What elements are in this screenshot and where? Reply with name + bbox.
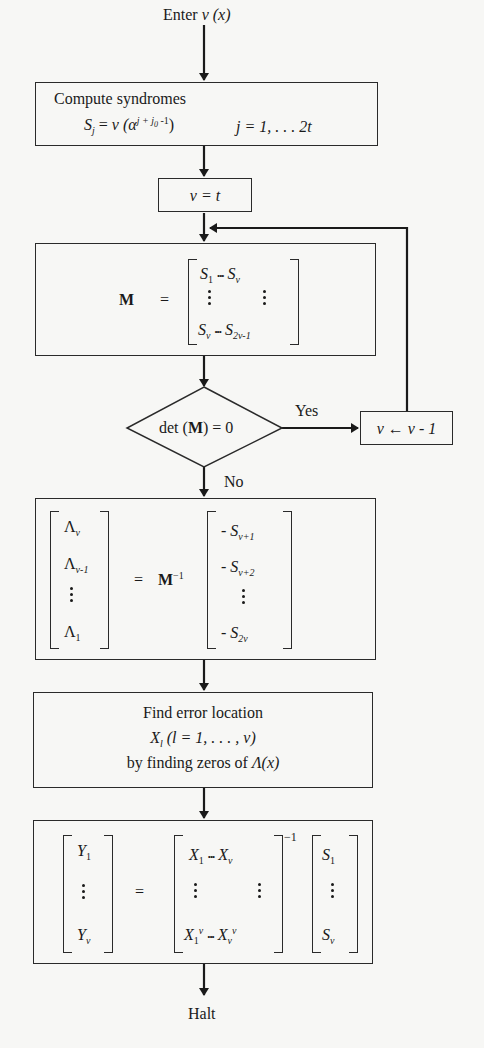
lambda-left-bracket-close <box>100 511 109 649</box>
y-entry-bottom: Yν <box>77 927 90 943</box>
matrix-m-row2: Sν ••• S2ν-1 <box>198 322 251 338</box>
x-row-1: X1 ••• Xν <box>189 847 232 863</box>
start-label: Enter v (x) <box>163 7 231 23</box>
locate-line-1: Find error location <box>34 705 372 721</box>
syndromes-range: j = 1, . . . 2t <box>236 119 312 135</box>
matrix-m-vdots-right <box>263 290 266 308</box>
x-row-2: X1ν ••• Xνν <box>184 927 236 943</box>
y-vdots <box>82 884 85 902</box>
matrix-m-row1: S1 ••• Sν <box>200 266 240 282</box>
matrix-m-vdots-left <box>208 290 211 308</box>
locate-line-2: Xl (l = 1, . . . , ν) <box>34 730 372 746</box>
lambda-right-bracket-close <box>283 511 292 649</box>
s-entry-top: S1 <box>322 847 335 863</box>
lambda-left-bracket-open <box>50 511 59 649</box>
syndromes-title: Compute syndromes <box>54 91 186 107</box>
locate-box: Find error location Xl (l = 1, . . . , ν… <box>33 692 373 788</box>
matrix-m-right-bracket <box>290 259 299 345</box>
init-box: ν = t <box>158 178 252 212</box>
lambda-entry-2: Λν-1 <box>64 556 88 572</box>
lambda-entry-1: Λν <box>64 519 80 535</box>
decision-yes-label: Yes <box>295 403 318 419</box>
lambda-equals: = <box>134 572 143 588</box>
y-entry-top: Y1 <box>77 843 91 859</box>
lambda-right-bracket-open <box>207 511 216 649</box>
rhs-vdots <box>242 589 245 607</box>
locate-line-3: by finding zeros of Λ(x) <box>34 755 372 771</box>
rhs-entry-1: - Sν+1 <box>221 523 255 539</box>
x-vdots-left <box>194 883 197 901</box>
matrix-m-box: M = S1 ••• Sν Sν ••• S2ν-1 <box>35 243 376 356</box>
x-inverse-exponent: −1 <box>284 831 297 843</box>
end-label: Halt <box>188 1006 216 1022</box>
rhs-entry-2: - Sν+2 <box>221 559 255 575</box>
decision-no-label: No <box>224 474 244 490</box>
syndromes-box: Compute syndromes Sj = v (αj + j0 -1) j … <box>35 82 378 146</box>
x-bracket-close <box>274 835 283 953</box>
syndromes-formula: Sj = v (αj + j0 -1) <box>84 117 174 133</box>
y-bracket-close <box>104 835 113 953</box>
init-label: ν = t <box>159 188 251 204</box>
lambda-entry-3: Λ1 <box>64 624 81 640</box>
lambda-solve-box: Λν Λν-1 Λ1 = M−1 - Sν+1 - Sν+2 - S2ν <box>35 498 376 660</box>
decrement-label: ν ← ν - 1 <box>361 421 452 437</box>
values-solve-box: Y1 Yν = X1 ••• Xν X1ν ••• Xνν −1 S1 Sν <box>33 820 373 964</box>
s-entry-bottom: Sν <box>322 927 334 943</box>
decision-label: det (M) = 0 <box>159 420 233 436</box>
x-vdots-right <box>258 883 261 901</box>
rhs-entry-3: - S2ν <box>221 625 248 641</box>
y-bracket-open <box>63 835 72 953</box>
values-equals: = <box>135 884 144 900</box>
lambda-vdots <box>70 587 73 605</box>
matrix-m-left-bracket <box>188 259 197 345</box>
s-bracket-close <box>349 835 358 953</box>
lambda-m-inverse: M−1 <box>158 572 184 588</box>
matrix-m-name: M <box>119 292 134 308</box>
matrix-m-equals: = <box>160 292 169 308</box>
s-vdots <box>331 883 334 901</box>
decrement-box: ν ← ν - 1 <box>360 411 453 445</box>
s-bracket-open <box>312 835 321 953</box>
x-bracket-open <box>174 835 183 953</box>
